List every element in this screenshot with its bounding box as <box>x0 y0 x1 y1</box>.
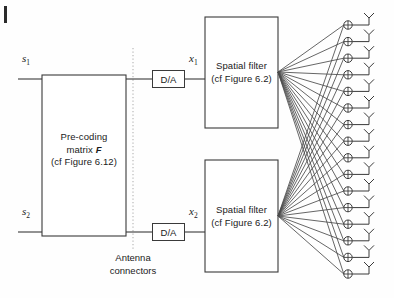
connectors-caption-line-2: connectors <box>93 265 173 278</box>
da-converter-1[interactable]: D/A <box>152 70 185 88</box>
dipole-arm-left <box>364 245 369 250</box>
fanout-line <box>278 72 344 224</box>
dipole-arm-left <box>364 162 369 167</box>
antenna-feed-line <box>352 217 369 224</box>
antenna-element <box>344 162 374 178</box>
dipole-arm-right <box>369 129 374 134</box>
fanout-network <box>278 25 344 274</box>
antenna-feed-line <box>352 101 369 108</box>
antenna-feed-line <box>352 151 369 158</box>
signal-x2-subscript: 2 <box>194 211 198 220</box>
input-s2-subscript: 2 <box>26 211 30 220</box>
dipole-arm-right <box>369 79 374 84</box>
fanout-line <box>278 72 344 174</box>
dipole-arm-left <box>364 129 369 134</box>
da-converter-2-label: D/A <box>153 227 184 238</box>
dipole-arm-left <box>364 229 369 234</box>
connectors-caption-line-1: Antenna <box>93 252 173 265</box>
dipole-arm-left <box>364 46 369 51</box>
dipole-arm-right <box>369 196 374 201</box>
antenna-feed-line <box>352 234 369 241</box>
antenna-element <box>344 129 374 145</box>
antenna-element <box>344 113 374 129</box>
dipole-arm-right <box>369 179 374 184</box>
antenna-element <box>344 79 374 95</box>
dipole-arm-right <box>369 162 374 167</box>
antenna-element <box>344 212 374 228</box>
dipole-arm-right <box>369 63 374 68</box>
dipole-arm-right <box>369 13 374 18</box>
signal-x1-subscript: 1 <box>194 58 198 67</box>
dipole-arm-left <box>364 212 369 217</box>
antenna-element <box>344 63 374 79</box>
antenna-feed-line <box>352 118 369 125</box>
dipole-arm-right <box>369 30 374 35</box>
dipole-arm-right <box>369 146 374 151</box>
antenna-element <box>344 229 374 245</box>
antenna-element <box>344 30 374 46</box>
antenna-element <box>344 245 374 261</box>
dipole-arm-left <box>364 30 369 35</box>
antenna-element <box>344 96 374 112</box>
antenna-feed-line <box>352 134 369 141</box>
antenna-feed-line <box>352 201 369 208</box>
dipole-arm-left <box>364 146 369 151</box>
dipole-arm-left <box>364 13 369 18</box>
antenna-feed-line <box>352 84 369 91</box>
fanout-line <box>278 108 344 216</box>
input-s1-subscript: 1 <box>26 58 30 67</box>
input-s1-label: s1 <box>22 52 30 67</box>
dipole-arm-left <box>364 96 369 101</box>
dipole-arm-right <box>369 245 374 250</box>
fanout-line <box>278 72 344 241</box>
dipole-arm-right <box>369 212 374 217</box>
signal-x2-label: x2 <box>189 205 198 220</box>
da-converter-2[interactable]: D/A <box>152 223 185 241</box>
antenna-feed-line <box>352 167 369 174</box>
antenna-feed-line <box>352 68 369 75</box>
spatial-filter-box-1 <box>205 17 278 128</box>
antenna-element <box>344 46 374 62</box>
dipole-arm-left <box>364 262 369 267</box>
antenna-feed-line <box>352 35 369 42</box>
dipole-arm-left <box>364 79 369 84</box>
dipole-arm-right <box>369 46 374 51</box>
antenna-feed-line <box>352 250 369 257</box>
dipole-arm-right <box>369 96 374 101</box>
fanout-line <box>278 72 344 75</box>
signal-x1-label: x1 <box>189 52 198 67</box>
dipole-arm-left <box>364 179 369 184</box>
antenna-feed-line <box>352 51 369 58</box>
fanout-line <box>278 91 344 216</box>
dipole-arm-right <box>369 262 374 267</box>
antenna-element <box>344 179 374 195</box>
fanout-line <box>278 72 344 257</box>
input-s2-label: s2 <box>22 205 30 220</box>
antenna-element-group <box>344 13 374 278</box>
dipole-arm-left <box>364 113 369 118</box>
dipole-arm-right <box>369 113 374 118</box>
antenna-element <box>344 262 374 278</box>
dipole-arm-left <box>364 196 369 201</box>
da-converter-1-label: D/A <box>153 74 184 85</box>
fanout-line <box>278 141 344 216</box>
antenna-feed-line <box>352 18 369 25</box>
dipole-arm-right <box>369 229 374 234</box>
antenna-feed-line <box>352 184 369 191</box>
figure-canvas: D/A D/A s1 s2 x1 x2 Pre-coding matrix F … <box>0 0 394 298</box>
precoding-matrix-box <box>42 75 126 236</box>
dipole-arm-left <box>364 63 369 68</box>
antenna-feed-line <box>352 267 369 274</box>
antenna-element <box>344 13 374 29</box>
antenna-element <box>344 146 374 162</box>
antenna-connectors-caption: Antenna connectors <box>93 252 173 277</box>
diagram-lines <box>0 0 394 298</box>
spatial-filter-box-2 <box>205 160 278 272</box>
antenna-element <box>344 196 374 212</box>
